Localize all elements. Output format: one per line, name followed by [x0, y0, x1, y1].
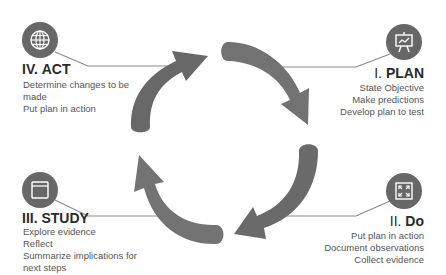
study-line: Explore evidence [23, 226, 137, 238]
study-icon-badge [22, 172, 58, 208]
pdsa-cycle-diagram: IV. ACT Determine changes to be made Put… [0, 0, 446, 275]
presentation-chart-icon [393, 31, 415, 53]
plan-number: I. [374, 65, 382, 81]
arrow-study-to-act [134, 155, 224, 244]
act-icon-badge [22, 22, 58, 58]
plan-description: State Objective Make predictions Develop… [340, 82, 424, 118]
plan-line: Develop plan to test [340, 106, 424, 118]
browser-window-icon [29, 179, 51, 201]
act-description: Determine changes to be made Put plan in… [23, 79, 129, 115]
act-line: made [23, 91, 129, 103]
arrow-do-to-study [234, 144, 318, 239]
study-title: III. STUDY [22, 210, 89, 226]
study-line: next steps [23, 262, 137, 274]
globe-icon [29, 29, 51, 51]
plan-line: Make predictions [340, 94, 424, 106]
plan-line: State Objective [340, 82, 424, 94]
study-number: III. [22, 210, 38, 226]
act-line: Determine changes to be [23, 79, 129, 91]
do-line: Collect evidence [324, 254, 424, 266]
study-name: STUDY [41, 210, 88, 226]
arrow-plan-to-do [221, 42, 309, 125]
act-title: IV. ACT [22, 61, 71, 77]
study-line: Summarize implications for [23, 250, 137, 262]
act-line: Put plan in action [23, 103, 129, 115]
study-description: Explore evidence Reflect Summarize impli… [23, 226, 137, 274]
expand-arrows-icon [393, 180, 415, 202]
study-line: Reflect [23, 238, 137, 250]
act-name: ACT [42, 61, 71, 77]
do-line: Put plan in action [324, 230, 424, 242]
do-description: Put plan in action Document observations… [324, 230, 424, 266]
do-line: Document observations [324, 242, 424, 254]
plan-title: I. PLAN [374, 65, 424, 81]
act-number: IV. [22, 61, 38, 77]
plan-name: PLAN [386, 65, 424, 81]
do-icon-badge [386, 173, 422, 209]
arrow-act-to-plan [131, 51, 208, 132]
do-name: Do [405, 213, 424, 229]
connector-act [55, 52, 168, 66]
plan-icon-badge [386, 24, 422, 60]
do-title: II. Do [390, 213, 424, 229]
connector-plan [272, 54, 390, 67]
do-number: II. [390, 213, 402, 229]
